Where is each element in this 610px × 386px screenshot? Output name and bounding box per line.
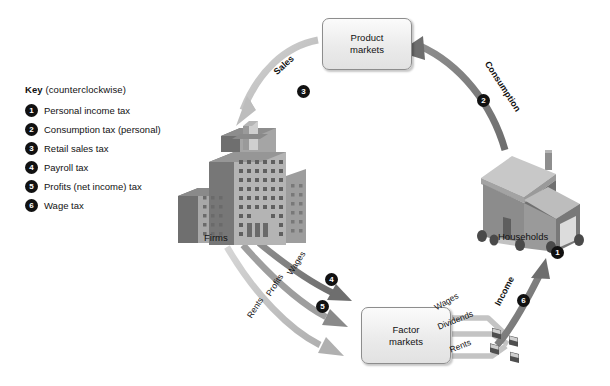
- firms-label: Firms: [204, 232, 228, 243]
- flow-badge-6: 6: [517, 294, 530, 307]
- key-item-1: 1 Personal income tax: [25, 101, 215, 120]
- flow-badge-3: 3: [297, 85, 310, 98]
- factor-markets-line2: markets: [389, 336, 423, 348]
- key-label-6: Wage tax: [44, 200, 84, 211]
- key-badge-4: 4: [25, 161, 38, 174]
- key-legend: Key (counterclockwise) 1 Personal income…: [25, 84, 215, 215]
- flow-badge-1: 1: [551, 246, 564, 259]
- key-label-5: Profits (net income) tax: [44, 181, 142, 192]
- key-label-2: Consumption tax (personal): [44, 124, 161, 135]
- key-title-rest: (counterclockwise): [45, 84, 125, 95]
- key-label-4: Payroll tax: [44, 162, 88, 173]
- key-badge-5: 5: [25, 180, 38, 193]
- factor-markets-box: Factor markets: [361, 307, 451, 364]
- key-badge-2: 2: [25, 123, 38, 136]
- key-badge-3: 3: [25, 142, 38, 155]
- flow-badge-5: 5: [316, 300, 329, 313]
- key-item-4: 4 Payroll tax: [25, 158, 215, 177]
- product-markets-line1: Product: [350, 32, 384, 44]
- product-markets-line2: markets: [350, 44, 384, 56]
- key-badge-1: 1: [25, 104, 38, 117]
- key-title-bold: Key: [25, 84, 43, 95]
- key-item-2: 2 Consumption tax (personal): [25, 120, 215, 139]
- key-label-3: Retail sales tax: [44, 143, 108, 154]
- key-item-6: 6 Wage tax: [25, 196, 215, 215]
- key-badge-6: 6: [25, 199, 38, 212]
- flow-badge-4: 4: [325, 273, 338, 286]
- key-item-5: 5 Profits (net income) tax: [25, 177, 215, 196]
- circular-flow-diagram: Key (counterclockwise) 1 Personal income…: [0, 0, 610, 386]
- flow-badge-2: 2: [477, 94, 490, 107]
- factor-markets-line1: Factor: [389, 324, 423, 336]
- key-title: Key (counterclockwise): [25, 84, 215, 95]
- key-label-1: Personal income tax: [44, 105, 130, 116]
- key-item-3: 3 Retail sales tax: [25, 139, 215, 158]
- product-markets-box: Product markets: [322, 18, 412, 70]
- households-label: Households: [498, 231, 548, 242]
